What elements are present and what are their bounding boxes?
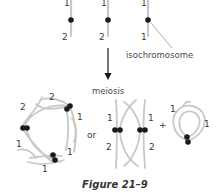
loop-configuration: 1 1 xyxy=(170,102,210,145)
svg-text:2: 2 xyxy=(149,142,155,152)
label: 1 xyxy=(64,0,70,8)
figure-caption: Figure 21–9 xyxy=(82,179,148,190)
svg-text:1: 1 xyxy=(204,119,210,129)
svg-text:1: 1 xyxy=(148,113,154,123)
label: 2 xyxy=(99,32,105,42)
meiosis-label: meiosis xyxy=(92,86,125,96)
chromosome-isochromosome: 1 1 isochromosome xyxy=(126,0,193,60)
label: 1 xyxy=(101,0,107,8)
isochromosome-diagram: 1 2 1 2 1 1 isochromosome meiosis 2 2 1 … xyxy=(0,0,221,193)
svg-text:1: 1 xyxy=(77,112,83,122)
chromosome-1: 1 2 xyxy=(62,0,74,42)
svg-text:1: 1 xyxy=(170,104,176,114)
chromosome-2: 1 2 xyxy=(99,0,111,42)
isochromosome-label: isochromosome xyxy=(126,50,193,60)
callout-line xyxy=(151,23,172,48)
label: 1 xyxy=(141,0,147,8)
svg-text:1: 1 xyxy=(42,164,48,174)
or-text: or xyxy=(87,130,97,140)
label: 1 xyxy=(141,32,147,42)
svg-text:2: 2 xyxy=(20,102,26,112)
svg-text:2: 2 xyxy=(106,142,112,152)
svg-text:1: 1 xyxy=(67,147,73,157)
pair-configuration: 1 2 1 2 xyxy=(106,100,155,168)
down-arrow-icon xyxy=(105,48,112,80)
centromere xyxy=(105,17,111,23)
svg-text:2: 2 xyxy=(49,92,55,102)
label: 2 xyxy=(62,32,68,42)
svg-text:1: 1 xyxy=(107,113,113,123)
ring-configuration: 2 2 1 1 1 1 xyxy=(16,92,83,174)
plus-text: + xyxy=(159,120,167,130)
centromere xyxy=(145,17,151,23)
centromere xyxy=(68,17,74,23)
svg-text:1: 1 xyxy=(16,139,22,149)
